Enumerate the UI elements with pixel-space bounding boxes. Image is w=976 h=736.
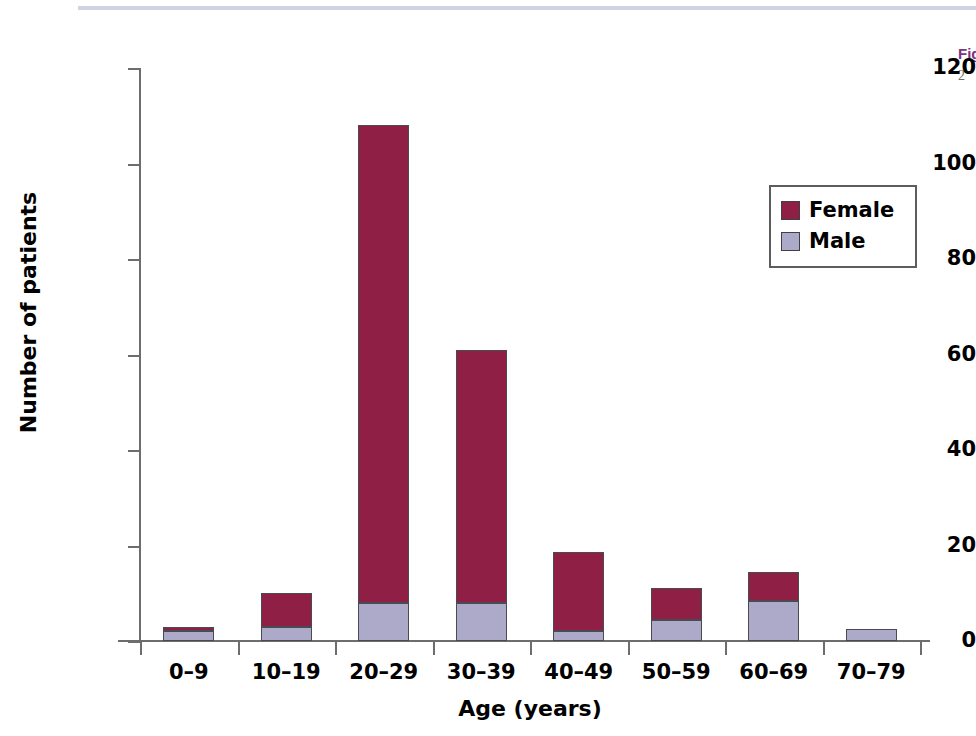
x-tick-label-1: 10–19: [238, 660, 336, 684]
y-tick-80: [128, 259, 139, 261]
y-tick-0: [128, 641, 139, 643]
bar-group-3: [456, 350, 507, 641]
legend-item-male: Male: [781, 226, 905, 257]
y-tick-120: [128, 68, 139, 70]
bar-segment-female-5: [651, 588, 702, 619]
x-tick-1: [238, 642, 240, 655]
y-tick-40: [128, 450, 139, 452]
y-tick-60: [128, 355, 139, 357]
bar-group-4: [553, 552, 604, 641]
legend-label-male: Male: [809, 231, 866, 252]
bar-segment-male-7: [846, 629, 897, 641]
x-tick-label-2: 20–29: [335, 660, 433, 684]
bar-group-5: [651, 588, 702, 641]
bar-group-2: [358, 125, 409, 641]
bar-segment-male-1: [261, 627, 312, 641]
bar-segment-female-4: [553, 552, 604, 631]
x-axis-title: Age (years): [140, 696, 920, 721]
plot-area: [140, 68, 920, 641]
x-tick-6: [725, 642, 727, 655]
legend-item-female: Female: [781, 195, 905, 226]
age-sex-distribution-bar-chart: Number of patients Age (years) 020406080…: [0, 0, 976, 736]
x-tick-label-0: 0–9: [140, 660, 238, 684]
bar-group-1: [261, 593, 312, 641]
y-tick-20: [128, 546, 139, 548]
bar-segment-male-3: [456, 603, 507, 641]
legend-swatch-female: [781, 201, 800, 220]
bar-segment-male-5: [651, 620, 702, 641]
x-tick-5: [628, 642, 630, 655]
x-tick-3: [433, 642, 435, 655]
bar-segment-male-0: [163, 631, 214, 641]
x-tick-8: [920, 642, 922, 655]
bar-segment-female-3: [456, 350, 507, 603]
bar-group-6: [748, 572, 799, 641]
x-tick-label-4: 40–49: [530, 660, 628, 684]
x-tick-label-7: 70–79: [823, 660, 921, 684]
y-axis-title: Number of patients: [16, 73, 41, 553]
bar-segment-male-6: [748, 601, 799, 641]
y-tick-100: [128, 164, 139, 166]
bar-segment-female-2: [358, 125, 409, 603]
chart-legend: Female Male: [769, 185, 917, 268]
x-tick-label-3: 30–39: [433, 660, 531, 684]
x-tick-0: [140, 642, 142, 655]
bar-segment-female-6: [748, 572, 799, 601]
legend-label-female: Female: [809, 200, 894, 221]
bar-segment-male-2: [358, 603, 409, 641]
x-tick-7: [823, 642, 825, 655]
x-tick-2: [335, 642, 337, 655]
x-tick-label-6: 60–69: [725, 660, 823, 684]
bar-group-7: [846, 629, 897, 641]
x-tick-4: [530, 642, 532, 655]
x-tick-label-5: 50–59: [628, 660, 726, 684]
bar-segment-female-1: [261, 593, 312, 626]
legend-swatch-male: [781, 232, 800, 251]
bar-group-0: [163, 627, 214, 641]
bar-segment-male-4: [553, 631, 604, 641]
